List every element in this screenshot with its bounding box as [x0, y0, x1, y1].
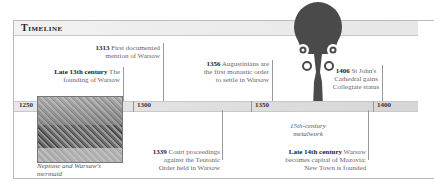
event-line-late-13th [123, 67, 124, 101]
event-line-late-14th [368, 110, 369, 160]
event-1339: 1339 Court proceedings against the Teuto… [140, 148, 220, 172]
title-bar [14, 21, 418, 36]
event-line-1313 [163, 43, 164, 101]
event-1356: 1356 Augustinians are the first monastic… [180, 60, 269, 84]
tick-1300: 1300 [137, 101, 151, 110]
event-line-1406 [382, 65, 383, 101]
tick-line-1400 [373, 101, 374, 112]
event-line-1339 [222, 110, 223, 160]
tick-1350: 1350 [255, 101, 269, 110]
timeline-title: Timeline [21, 22, 63, 33]
event-1313: 1313 First documented mention of Warsaw [60, 44, 160, 60]
tick-1400: 1400 [377, 101, 391, 110]
neptune-mermaid-image [37, 96, 123, 163]
tick-line-1350 [251, 101, 252, 112]
event-late-14th-century: Late 14th century Warsaw becomes capital… [270, 148, 366, 172]
tick-1250: 1250 [19, 101, 33, 110]
metalwork-image [283, 0, 353, 110]
caption-neptune: Neptune and Warsaw's mermaid [37, 162, 137, 178]
event-line-1356 [272, 60, 273, 101]
caption-metalwork: 15th-century metalwork [280, 122, 336, 138]
event-late-13th-century: Late 13th century The founding of Warsaw [20, 68, 120, 84]
tick-line-1300 [133, 101, 134, 112]
event-1406: 1406 St John's Cathedral gains Collegiat… [332, 67, 380, 91]
